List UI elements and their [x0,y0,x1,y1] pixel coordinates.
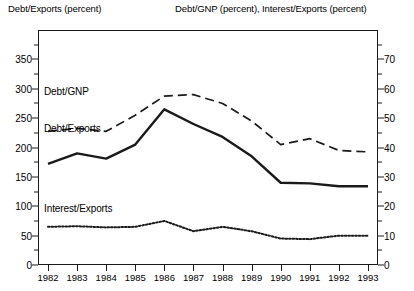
left-axis-tick-label: 200 [2,142,32,153]
x-axis-tick-label: 1988 [212,272,233,283]
right-axis-tick-label: 40 [384,142,414,153]
series-line-interest-exports [48,221,368,239]
right-axis-tick-mark [378,206,384,207]
x-axis-tick-label: 1990 [270,272,291,283]
x-axis-tick-mark [339,265,340,271]
x-axis-tick-label: 1992 [328,272,349,283]
x-axis-tick-mark [77,265,78,271]
right-axis-minor-tick [378,103,382,104]
right-axis-tick-label: 50 [384,113,414,124]
series-label-debt-gnp: Debt/GNP [44,86,89,97]
right-axis-tick-label: 70 [384,54,414,65]
right-axis-minor-tick [378,191,382,192]
right-axis-minor-tick [378,132,382,133]
series-line-debt-exports [48,109,368,186]
right-axis-tick-label: 30 [384,171,414,182]
right-axis-minor-tick [378,162,382,163]
right-axis-tick-label: 0 [384,260,414,271]
right-axis-tick-mark [378,176,384,177]
x-axis-tick-label: 1985 [125,272,146,283]
x-axis-tick-label: 1989 [241,272,262,283]
left-axis-title: Debt/Exports (percent) [8,3,101,14]
x-axis-tick-mark [135,265,136,271]
right-axis-title: Debt/GNP (percent), Interest/Exports (pe… [175,3,367,14]
series-label-debt-exports: Debt/Exports [44,123,101,134]
right-axis-tick-mark [378,118,384,119]
x-axis-tick-label: 1982 [37,272,58,283]
x-axis-tick-mark [106,265,107,271]
x-axis-tick-mark [164,265,165,271]
right-axis-tick-mark [378,59,384,60]
x-axis-tick-mark [223,265,224,271]
left-axis-tick-label: 350 [2,54,32,65]
x-axis-tick-label: 1984 [96,272,117,283]
right-axis-tick-label: 20 [384,201,414,212]
x-axis-tick-label: 1987 [183,272,204,283]
left-axis-tick-label: 50 [2,230,32,241]
x-axis-tick-mark [310,265,311,271]
x-axis-tick-mark [48,265,49,271]
right-axis-tick-mark [378,265,384,266]
x-axis-tick-mark [193,265,194,271]
right-axis-minor-tick [378,250,382,251]
series-label-interest-exports: Interest/Exports [44,203,112,214]
left-axis-tick-label: 250 [2,113,32,124]
x-axis-tick-label: 1991 [299,272,320,283]
x-axis-tick-label: 1986 [154,272,175,283]
x-axis-tick-label: 1983 [67,272,88,283]
x-axis-tick-mark [252,265,253,271]
left-axis-tick-label: 0 [2,260,32,271]
chart-container: Debt/Exports (percent) Debt/GNP (percent… [0,0,414,291]
right-axis-minor-tick [378,74,382,75]
right-axis-minor-tick [378,220,382,221]
x-axis-tick-mark [281,265,282,271]
right-axis-minor-tick [378,44,382,45]
x-axis-tick-mark [368,265,369,271]
series-plot-area [38,30,378,265]
left-axis-tick-label: 100 [2,201,32,212]
x-axis-tick-label: 1993 [357,272,378,283]
left-axis-tick-label: 150 [2,171,32,182]
right-axis-tick-label: 60 [384,83,414,94]
right-axis-tick-mark [378,147,384,148]
right-axis-tick-mark [378,88,384,89]
right-axis-tick-label: 10 [384,230,414,241]
right-axis-tick-mark [378,235,384,236]
left-axis-tick-label: 300 [2,83,32,94]
